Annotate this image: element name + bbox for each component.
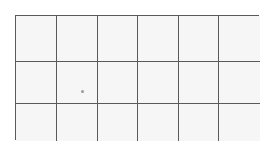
grid-cell <box>16 104 57 141</box>
canvas <box>0 0 275 167</box>
grid-cell <box>138 16 179 62</box>
grid-cell <box>219 16 260 62</box>
grid-cell <box>57 104 98 141</box>
grid-cell <box>179 62 219 104</box>
grid-cell <box>138 104 179 141</box>
grid-cell <box>16 16 57 62</box>
grid-cell <box>219 104 260 141</box>
grid-cell <box>98 16 138 62</box>
grid-cell <box>16 62 57 104</box>
dot-marker <box>81 90 84 93</box>
grid <box>15 15 259 140</box>
grid-cell <box>98 62 138 104</box>
grid-cell <box>98 104 138 141</box>
grid-cell <box>138 62 179 104</box>
grid-cell <box>219 62 260 104</box>
grid-cell <box>179 104 219 141</box>
grid-cell <box>57 62 98 104</box>
grid-cell <box>57 16 98 62</box>
grid-cell <box>179 16 219 62</box>
